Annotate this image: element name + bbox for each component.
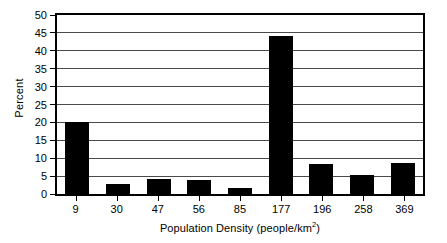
x-axis-tick-label: 369 <box>384 203 425 215</box>
x-axis-tick-slot: 196 <box>302 196 343 222</box>
x-axis-tick-label: 56 <box>178 203 219 215</box>
bar-slot <box>260 15 301 194</box>
x-axis-tick <box>363 196 364 201</box>
y-axis-tick-label: 15 <box>9 134 55 146</box>
x-axis-tick-label: 258 <box>343 203 384 215</box>
y-axis-tick-label: 0 <box>9 188 55 200</box>
bar-slot <box>57 15 98 194</box>
x-axis-tick <box>76 196 77 201</box>
bar-slot <box>138 15 179 194</box>
y-axis-tick-layer: 05101520253035404550 <box>0 13 55 196</box>
x-axis-title-suffix: ) <box>316 222 320 234</box>
x-axis-tick-label: 30 <box>96 203 137 215</box>
y-axis-tick-label: 30 <box>9 81 55 93</box>
x-axis-tick <box>404 196 405 201</box>
bar-slot <box>342 15 383 194</box>
x-axis-tick <box>322 196 323 201</box>
x-axis-tick-slot: 258 <box>343 196 384 222</box>
x-axis-tick-slot: 56 <box>178 196 219 222</box>
x-axis-tick-label: 177 <box>261 203 302 215</box>
bar-chart-figure: Percent 05101520253035404550 93047568517… <box>0 0 447 243</box>
bar-series <box>57 15 423 194</box>
bar <box>187 180 211 194</box>
bar <box>350 175 374 194</box>
bar-slot <box>382 15 423 194</box>
y-axis-tick-label: 10 <box>9 152 55 164</box>
x-axis-tick-slot: 30 <box>96 196 137 222</box>
bar-slot <box>98 15 139 194</box>
bar <box>391 163 415 195</box>
x-axis-tick-slot: 9 <box>55 196 96 222</box>
x-axis-tick-label: 85 <box>219 203 260 215</box>
x-axis-tick <box>240 196 241 201</box>
y-axis-tick-label: 40 <box>9 45 55 57</box>
x-axis-tick-label: 9 <box>55 203 96 215</box>
x-axis-tick <box>117 196 118 201</box>
x-axis-title-prefix: Population Density (people/km <box>160 222 312 234</box>
x-axis-tick-slot: 177 <box>261 196 302 222</box>
y-axis-tick-label: 50 <box>9 9 55 21</box>
y-axis-tick-label: 25 <box>9 99 55 111</box>
bar-slot <box>220 15 261 194</box>
x-axis-tick-label: 47 <box>137 203 178 215</box>
x-axis-tick-label: 196 <box>302 203 343 215</box>
y-axis-tick-label: 45 <box>9 27 55 39</box>
bar <box>147 179 171 194</box>
x-axis-tick-slot: 369 <box>384 196 425 222</box>
x-axis-tick-slot: 85 <box>219 196 260 222</box>
y-axis-tick-label: 35 <box>9 63 55 75</box>
bar-slot <box>179 15 220 194</box>
x-axis-tick-slot: 47 <box>137 196 178 222</box>
bar <box>309 164 333 194</box>
plot-area <box>55 13 425 196</box>
bar <box>228 188 252 194</box>
x-axis-tick-layer: 930475685177196258369 <box>55 196 425 222</box>
y-axis-tick-label: 20 <box>9 116 55 128</box>
bar <box>65 122 89 194</box>
bar-slot <box>301 15 342 194</box>
x-axis-title: Population Density (people/km2) <box>55 222 425 234</box>
y-axis-tick-label: 5 <box>9 170 55 182</box>
bar <box>106 184 130 194</box>
x-axis-tick <box>158 196 159 201</box>
bar <box>269 36 293 194</box>
x-axis-tick <box>281 196 282 201</box>
x-axis-tick <box>199 196 200 201</box>
